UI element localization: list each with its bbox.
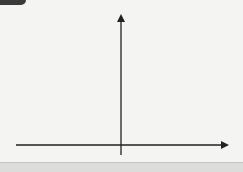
exponential-graph [0,0,243,172]
y-axis-arrow-icon [117,14,125,22]
footer-bar [0,162,243,172]
x-axis-arrow-icon [221,141,229,149]
